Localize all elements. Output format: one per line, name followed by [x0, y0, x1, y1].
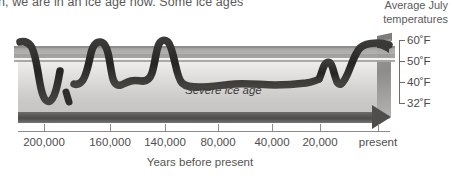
x-axis-title: Years before present — [0, 156, 400, 168]
chart-root: n, we are in an ice age now. Some ice ag… — [0, 0, 452, 182]
time-arrow-bar — [18, 112, 375, 123]
y-axis-tick — [399, 103, 405, 104]
x-axis-tick — [110, 124, 111, 132]
reference-line-white — [14, 58, 395, 60]
x-axis-tick — [320, 124, 321, 132]
y-axis-tick — [399, 82, 405, 83]
x-axis-tick-label: present — [359, 135, 397, 149]
y-axis-tick-label: 60˚F — [407, 34, 431, 46]
x-axis-tick-label: 200,000 — [23, 135, 65, 149]
x-axis-line — [18, 131, 390, 132]
time-arrow-head — [372, 105, 391, 129]
x-axis-tick — [165, 124, 166, 132]
x-axis-tick — [218, 124, 219, 132]
x-axis-tick — [272, 124, 273, 132]
x-axis-tick-label: 40,000 — [254, 135, 289, 149]
x-axis-tick — [378, 124, 379, 132]
x-axis-tick-label: 140,000 — [144, 135, 186, 149]
y-axis-bracket — [399, 40, 400, 104]
y-axis-tick — [399, 61, 405, 62]
y-axis-tick — [399, 40, 405, 41]
y-axis-tick-label: 40˚F — [407, 76, 431, 88]
y-axis-tick-label: 32˚F — [407, 97, 431, 109]
x-axis-tick-label: 80,000 — [200, 135, 235, 149]
y-axis-tick-label: 50˚F — [407, 55, 431, 67]
x-axis-tick-label: 160,000 — [89, 135, 131, 149]
x-axis-tick — [44, 124, 45, 132]
x-axis-tick-label: 20,000 — [302, 135, 337, 149]
chart-slab: Severe ice age — [0, 0, 452, 182]
severe-ice-age-label: Severe ice age — [185, 84, 262, 96]
